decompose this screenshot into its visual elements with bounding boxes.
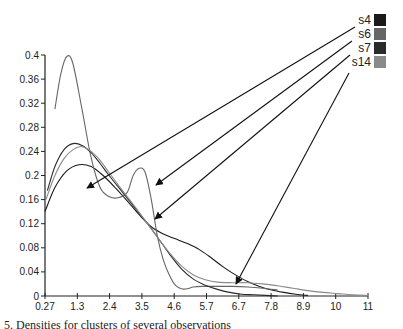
x-tick-label: 3.5 [135,301,149,312]
legend-swatch-s6 [374,28,386,40]
y-tick-label: 0.28 [20,122,40,133]
arrow-s14 [236,73,349,284]
x-tick-label: 11 [363,301,374,312]
x-tick-label: 6.7 [232,301,246,312]
x-tick-label: 0.27 [35,301,55,312]
legend-label-s4: s4 [358,13,371,27]
series-line-s4 [45,164,308,295]
y-tick-label: 0.12 [20,218,40,229]
x-tick-label: 4.6 [167,301,181,312]
y-tick-label: 0.32 [20,98,40,109]
figure-caption: 5. Densities for clusters of several obs… [4,318,231,329]
x-tick-label: 1.3 [70,301,84,312]
x-tick-label: 2.4 [103,301,117,312]
x-tick-label: 10 [330,301,342,312]
x-tick-label: 5.7 [200,301,214,312]
legend-label-s7: s7 [358,41,371,55]
y-tick-label: 0.36 [20,74,40,85]
legend-label-s6: s6 [358,27,371,41]
x-axis: 0.271.32.43.54.65.76.77.88.91011 [35,293,373,312]
y-tick-label: 0 [33,291,39,302]
y-tick-label: 0.4 [25,50,39,61]
legend-swatch-s7 [374,42,386,54]
arrow-s7 [155,55,350,219]
legend-swatch-s4 [374,14,386,26]
series-line-s7 [47,143,277,296]
y-tick-label: 0.08 [20,242,40,253]
x-tick-label: 8.9 [296,301,310,312]
y-tick-label: 0.24 [20,146,40,157]
y-tick-label: 0.2 [25,170,39,181]
legend-label-s14: s14 [352,55,372,69]
density-chart: 00.040.080.120.160.20.240.280.320.360.4 … [0,0,403,329]
series-line-s6 [55,56,278,290]
arrow-s6 [156,41,352,185]
legend: s4s6s7s14 [352,13,386,69]
y-tick-label: 0.16 [20,194,40,205]
y-axis: 00.040.080.120.160.20.240.280.320.360.4 [20,50,45,302]
y-tick-label: 0.04 [20,266,40,277]
x-tick-label: 7.8 [264,301,278,312]
annotation-arrows [87,27,355,284]
legend-swatch-s14 [374,56,386,68]
